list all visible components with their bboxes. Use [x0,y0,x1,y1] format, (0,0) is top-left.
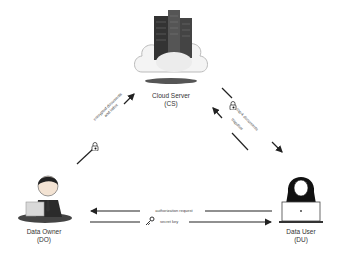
key-icon [145,216,155,226]
edge-label-du-to-do: authorization request [146,208,202,213]
data-user-label: Data User (DU) [269,228,333,244]
cloud-server-label: Cloud Server (CS) [135,92,207,108]
data-user-name: Data User [269,228,333,236]
woman-laptop-icon [276,170,326,226]
data-user-abbr: (DU) [269,236,333,244]
data-owner-abbr: (DO) [10,236,78,244]
cloud-server-icon [130,2,212,86]
cloud-server-name: Cloud Server [135,92,207,100]
data-owner-label: Data Owner (DO) [10,228,78,244]
data-owner-name: Data Owner [10,228,78,236]
businessman-laptop-icon [14,170,76,226]
edge-label-do-to-du: secret key [160,219,188,224]
lock-icon [91,142,99,151]
cloud-server-abbr: (CS) [135,100,207,108]
